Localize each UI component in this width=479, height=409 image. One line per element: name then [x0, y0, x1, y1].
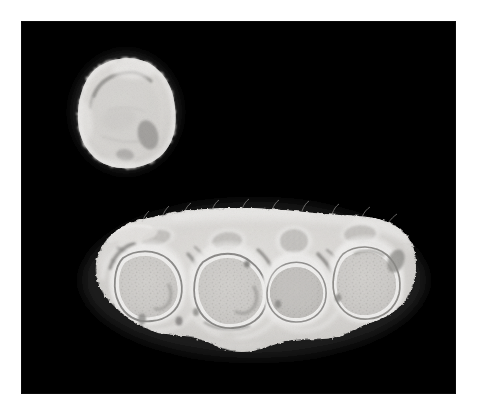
micrograph-plate [22, 22, 455, 393]
figure-root: grayscale-cross-section-micrograph small… [0, 0, 479, 409]
micrograph-canvas [22, 22, 455, 393]
